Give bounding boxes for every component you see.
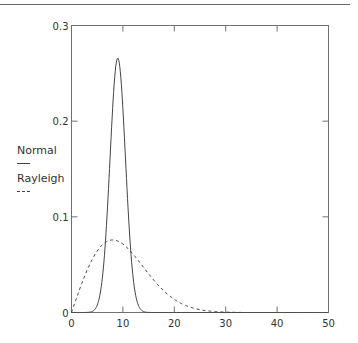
- x-tick-label: 10: [117, 318, 130, 329]
- x-tick-label: 40: [271, 318, 284, 329]
- normal-curve: [72, 58, 328, 312]
- legend-label-normal: Normal: [17, 143, 65, 158]
- legend: Normal Rayleigh: [17, 143, 65, 199]
- y-tick-label: 0.1: [53, 212, 69, 223]
- plot-frame: [72, 26, 329, 313]
- y-tick-label: 0: [62, 308, 68, 319]
- legend-dashed-line-icon: [17, 186, 31, 199]
- x-tick-label: 50: [322, 318, 335, 329]
- x-tick-label: 20: [168, 318, 181, 329]
- legend-solid-line-icon: [17, 158, 31, 171]
- x-tick-label: 30: [219, 318, 232, 329]
- legend-label-rayleigh: Rayleigh: [17, 171, 65, 186]
- x-tick-label: 0: [68, 318, 74, 329]
- y-tick-label: 0.3: [53, 21, 69, 32]
- rayleigh-curve: [72, 240, 242, 313]
- tick-labels: 0102030405000.10.20.3: [53, 21, 335, 329]
- y-tick-label: 0.2: [53, 116, 69, 127]
- axis-ticks: [72, 26, 329, 313]
